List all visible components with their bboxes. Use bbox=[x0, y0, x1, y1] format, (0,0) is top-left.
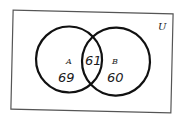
venn-diagram: U A B 61 69 60 bbox=[0, 0, 185, 117]
set-b-only-count: 60 bbox=[107, 70, 124, 85]
set-b-label: B bbox=[111, 57, 118, 66]
intersection-count: 61 bbox=[85, 53, 102, 68]
universe-label: U bbox=[158, 21, 167, 32]
set-a-only-count: 69 bbox=[58, 70, 75, 85]
set-a-label: A bbox=[65, 57, 72, 66]
